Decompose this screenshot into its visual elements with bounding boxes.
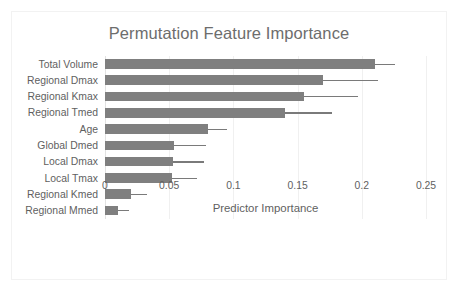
category-label: Regional Dmax bbox=[27, 73, 98, 88]
category-label: Regional Tmed bbox=[28, 105, 98, 120]
error-bar bbox=[323, 80, 378, 81]
error-bar bbox=[172, 178, 198, 179]
bar-row: Regional Kmed bbox=[105, 186, 426, 202]
category-label: Local Dmax bbox=[43, 154, 98, 169]
bar-rows: Total VolumeRegional DmaxRegional KmaxRe… bbox=[105, 56, 426, 219]
bar bbox=[105, 108, 285, 118]
x-tick-label: 0.1 bbox=[226, 180, 240, 191]
bar bbox=[105, 189, 131, 199]
bar-row: Regional Kmax bbox=[105, 89, 426, 105]
chart-title: Permutation Feature Importance bbox=[12, 24, 446, 43]
error-bar bbox=[304, 96, 358, 97]
bar bbox=[105, 157, 173, 167]
bar-row: Total Volume bbox=[105, 56, 426, 72]
error-bar bbox=[375, 64, 396, 65]
category-label: Regional Kmax bbox=[28, 89, 98, 104]
bar-row: Age bbox=[105, 121, 426, 137]
bar bbox=[105, 92, 304, 102]
bar-row: Global Dmed bbox=[105, 138, 426, 154]
error-bar bbox=[208, 129, 227, 130]
error-bar bbox=[173, 161, 204, 162]
bar bbox=[105, 141, 174, 151]
bar-row: Regional Dmax bbox=[105, 72, 426, 88]
error-bar bbox=[285, 112, 333, 113]
bar-row: Regional Tmed bbox=[105, 105, 426, 121]
bar-row: Local Tmax bbox=[105, 170, 426, 186]
chart-frame: Permutation Feature Importance Total Vol… bbox=[11, 11, 447, 280]
category-label: Regional Kmed bbox=[27, 187, 98, 202]
category-label: Global Dmed bbox=[37, 138, 98, 153]
plot-area: Total VolumeRegional DmaxRegional KmaxRe… bbox=[105, 56, 426, 219]
error-bar bbox=[131, 194, 148, 195]
category-label: Local Tmax bbox=[44, 171, 98, 186]
x-tick-label: 0.2 bbox=[355, 180, 369, 191]
x-axis-title: Predictor Importance bbox=[105, 202, 426, 214]
gridline bbox=[426, 56, 427, 219]
error-bar bbox=[174, 145, 206, 146]
bar bbox=[105, 59, 375, 69]
x-tick-label: 0 bbox=[102, 180, 108, 191]
bar bbox=[105, 75, 323, 85]
x-tick-label: 0.05 bbox=[159, 180, 179, 191]
x-tick-label: 0.15 bbox=[287, 180, 307, 191]
category-label: Age bbox=[80, 122, 99, 137]
category-label: Regional Mmed bbox=[25, 203, 98, 218]
bar-row: Local Dmax bbox=[105, 154, 426, 170]
category-label: Total Volume bbox=[39, 57, 99, 72]
bar bbox=[105, 124, 208, 134]
x-tick-label: 0.25 bbox=[416, 180, 436, 191]
